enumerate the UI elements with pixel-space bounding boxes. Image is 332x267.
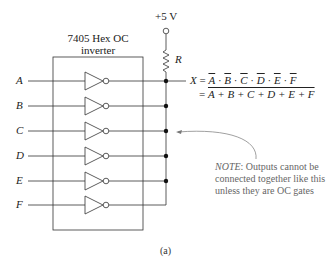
- equation-rhs: A + B + C + D + E + F: [208, 88, 315, 100]
- inverter-icon: [85, 147, 103, 165]
- gate-row-c: [28, 122, 168, 140]
- input-label-a: A: [16, 74, 23, 86]
- input-label-f: F: [16, 198, 23, 210]
- supply-label: +5 V: [155, 10, 177, 22]
- resistor-icon: [163, 50, 169, 72]
- gate-row-d: [28, 147, 168, 165]
- supply-terminal: [163, 28, 169, 34]
- inverter-icon: [85, 196, 103, 214]
- chip-title-line2: inverter: [48, 44, 148, 57]
- input-label-e: E: [16, 174, 23, 186]
- inverter-icon: [85, 97, 103, 115]
- input-label-c: C: [16, 124, 23, 136]
- inverter-icon: [85, 72, 103, 90]
- gate-row-a: [28, 72, 168, 90]
- note-arrow: [178, 131, 256, 159]
- gate-row-e: [28, 172, 168, 190]
- resistor-label: R: [175, 53, 182, 65]
- arrowhead-icon: [176, 130, 182, 134]
- note-text: NOTE: Outputs cannot be connected togeth…: [215, 161, 330, 197]
- equation-lhs: X: [190, 74, 197, 86]
- figure-caption: (a): [160, 245, 171, 256]
- gate-row-f: [28, 196, 166, 214]
- equation-line2: = A + B + C + D + E + F: [199, 88, 315, 100]
- equation-line1: X = A · B · C · D · E · F: [190, 74, 297, 86]
- gate-row-b: [28, 97, 168, 115]
- inverter-icon: [85, 172, 103, 190]
- input-label-b: B: [16, 99, 23, 111]
- inverter-icon: [85, 122, 103, 140]
- input-label-d: D: [16, 149, 24, 161]
